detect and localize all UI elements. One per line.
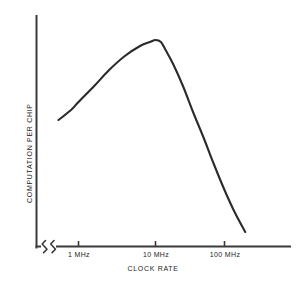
data-curve bbox=[59, 40, 246, 232]
y-axis-title: COMPUTATION PER CHIP bbox=[26, 103, 33, 203]
x-axis-title: CLOCK RATE bbox=[88, 265, 218, 272]
axis-break-icon bbox=[42, 241, 55, 253]
x-tick-label-10mhz: 10 MHz bbox=[133, 251, 179, 258]
chart-figure: 1 MHz 10 MHz 100 MHz CLOCK RATE COMPUTAT… bbox=[0, 0, 306, 292]
chart-plot-area bbox=[0, 0, 306, 292]
x-tick-label-100mhz: 100 MHz bbox=[200, 251, 250, 258]
x-tick-label-1mhz: 1 MHz bbox=[58, 251, 100, 258]
x-axis-ticks bbox=[79, 241, 225, 246]
